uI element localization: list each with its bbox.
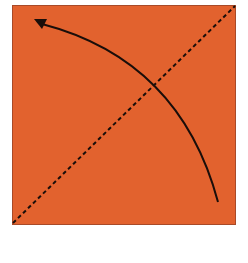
origami-diagram (0, 0, 248, 263)
